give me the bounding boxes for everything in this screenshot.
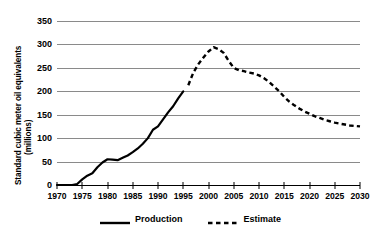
x-tick	[82, 182, 83, 189]
x-tick-label: 2025	[325, 191, 344, 201]
x-tick-label: 2030	[350, 191, 369, 201]
x-tick	[183, 182, 184, 189]
production-line	[57, 91, 183, 185]
x-tick-label: 1980	[98, 191, 117, 201]
x-tick-label: 2015	[275, 191, 294, 201]
x-tick-label: 2000	[199, 191, 218, 201]
y-axis-tick-labels: 050100150200250300350	[8, 21, 52, 185]
chart-legend: ProductionEstimate	[0, 209, 381, 229]
y-tick-label: 100	[12, 133, 52, 143]
y-tick-label: 0	[12, 180, 52, 190]
x-tick	[309, 182, 310, 189]
x-tick-label: 2020	[300, 191, 319, 201]
x-tick-label: 1995	[174, 191, 193, 201]
x-tick	[259, 182, 260, 189]
x-tick-label: 1970	[47, 191, 66, 201]
x-tick-label: 2010	[249, 191, 268, 201]
x-tick	[132, 182, 133, 189]
x-tick	[158, 182, 159, 189]
chart-container: Standard cubic meter oil equivalents (mi…	[0, 0, 381, 234]
solid-line-swatch-icon	[100, 214, 130, 224]
y-tick-label: 300	[12, 39, 52, 49]
estimate-line	[188, 47, 360, 126]
x-tick	[284, 182, 285, 189]
x-tick-label: 2005	[224, 191, 243, 201]
x-tick	[360, 182, 361, 189]
y-tick-label: 200	[12, 86, 52, 96]
x-tick	[107, 182, 108, 189]
y-tick-label: 150	[12, 110, 52, 120]
x-tick	[334, 182, 335, 189]
y-tick-label: 50	[12, 157, 52, 167]
x-tick-label: 1990	[148, 191, 167, 201]
dashed-line-swatch-icon	[208, 214, 238, 224]
plot-area	[57, 21, 360, 185]
x-tick-label: 1985	[123, 191, 142, 201]
x-tick	[233, 182, 234, 189]
legend-item-production[interactable]: Production	[100, 214, 183, 224]
series-lines	[57, 21, 360, 185]
x-tick	[57, 182, 58, 189]
y-tick-label: 250	[12, 63, 52, 73]
legend-label: Estimate	[243, 214, 281, 224]
legend-item-estimate[interactable]: Estimate	[208, 214, 281, 224]
y-tick-label: 350	[12, 16, 52, 26]
x-tick	[208, 182, 209, 189]
x-axis-tick-labels: 1970197519801985199019952000200520102015…	[0, 191, 381, 205]
x-tick-label: 1975	[73, 191, 92, 201]
legend-label: Production	[135, 214, 183, 224]
